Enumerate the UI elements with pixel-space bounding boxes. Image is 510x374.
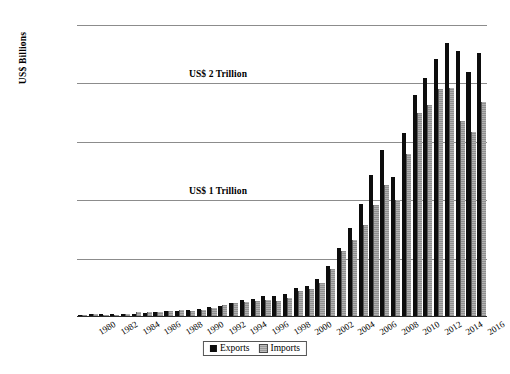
bar-imports[interactable]	[352, 240, 357, 317]
bar-group[interactable]	[88, 25, 99, 317]
x-axis-tick-label: 2004	[356, 319, 377, 337]
bar-group[interactable]	[401, 25, 412, 317]
bar-group[interactable]	[163, 25, 174, 317]
x-axis-tick-label: 2012	[442, 319, 463, 337]
bar-group[interactable]	[369, 25, 380, 317]
bar-group[interactable]	[476, 25, 487, 317]
exports-swatch-icon	[210, 345, 217, 352]
x-axis-tick-label: 2010	[421, 319, 442, 337]
bar-imports[interactable]	[384, 185, 389, 317]
bar-imports[interactable]	[363, 225, 368, 317]
x-axis-line	[77, 316, 487, 317]
bar-group[interactable]	[412, 25, 423, 317]
imports-swatch-icon	[259, 344, 268, 353]
bar-group[interactable]	[282, 25, 293, 317]
bar-group[interactable]	[142, 25, 153, 317]
bar-group[interactable]	[358, 25, 369, 317]
bar-group[interactable]	[347, 25, 358, 317]
bar-imports[interactable]	[244, 302, 249, 317]
y-axis-title: US$ Billions	[18, 0, 28, 118]
x-axis-tick-label: 1994	[248, 319, 269, 337]
x-axis-tick-label: 2016	[486, 319, 507, 337]
bar-group[interactable]	[174, 25, 185, 317]
bar-group[interactable]	[131, 25, 142, 317]
bar-imports[interactable]	[417, 113, 422, 317]
x-axis-tick-label: 1988	[183, 319, 204, 337]
x-axis-tick-label: 1986	[162, 319, 183, 337]
legend-label-exports: Exports	[220, 343, 250, 353]
bar-group[interactable]	[293, 25, 304, 317]
bar-imports[interactable]	[471, 132, 476, 317]
legend-label-imports: Imports	[271, 343, 301, 353]
bar-imports[interactable]	[298, 291, 303, 317]
bar-group[interactable]	[390, 25, 401, 317]
bar-imports[interactable]	[373, 205, 378, 317]
bar-imports[interactable]	[287, 298, 292, 317]
bar-group[interactable]	[379, 25, 390, 317]
bar-group[interactable]	[315, 25, 326, 317]
bar-group[interactable]	[99, 25, 110, 317]
plot-area: $0$500$1,000$1,500$2,000$2,500 US$ 2 Tri…	[77, 25, 487, 317]
bar-group[interactable]	[109, 25, 120, 317]
x-axis-tick-label: 1990	[205, 319, 226, 337]
bar-group[interactable]	[423, 25, 434, 317]
x-axis-tick-label: 2006	[378, 319, 399, 337]
bar-group[interactable]	[336, 25, 347, 317]
x-axis-tick-label: 2014	[464, 319, 485, 337]
bar-group[interactable]	[325, 25, 336, 317]
bar-group[interactable]	[304, 25, 315, 317]
bar-imports[interactable]	[438, 89, 443, 317]
bar-imports[interactable]	[341, 251, 346, 317]
bar-imports[interactable]	[255, 301, 260, 317]
x-axis-tick-label: 2002	[334, 319, 355, 337]
chart-legend: Exports Imports	[203, 341, 307, 356]
bar-imports[interactable]	[427, 105, 432, 317]
bar-imports[interactable]	[265, 300, 270, 317]
bar-imports[interactable]	[395, 200, 400, 318]
bar-group[interactable]	[250, 25, 261, 317]
bar-group[interactable]	[261, 25, 272, 317]
x-axis-tick-label: 1998	[291, 319, 312, 337]
bar-group[interactable]	[444, 25, 455, 317]
legend-item-imports: Imports	[259, 343, 301, 353]
bar-imports[interactable]	[449, 88, 454, 317]
bar-group[interactable]	[271, 25, 282, 317]
bar-imports[interactable]	[309, 289, 314, 317]
x-axis-tick-label: 2008	[399, 319, 420, 337]
bar-group[interactable]	[153, 25, 164, 317]
x-axis-tick-label: 1980	[97, 319, 118, 337]
chart-container: US$ Billions $0$500$1,000$1,500$2,000$2,…	[0, 0, 510, 374]
bar-series-group	[77, 25, 487, 317]
x-axis-tick-label: 1992	[227, 319, 248, 337]
x-axis-tick-label: 1984	[140, 319, 161, 337]
legend-item-exports: Exports	[210, 343, 250, 353]
bar-imports[interactable]	[460, 121, 465, 317]
bar-imports[interactable]	[276, 301, 281, 317]
chart-annotation: US$ 2 Trillion	[189, 69, 247, 79]
x-axis-tick-label: 1982	[119, 319, 140, 337]
bar-group[interactable]	[120, 25, 131, 317]
bar-group[interactable]	[466, 25, 477, 317]
bar-group[interactable]	[77, 25, 88, 317]
bar-imports[interactable]	[406, 154, 411, 317]
bar-group[interactable]	[433, 25, 444, 317]
x-axis-tick-label: 1996	[270, 319, 291, 337]
chart-annotation: US$ 1 Trillion	[189, 186, 247, 196]
bar-imports[interactable]	[330, 269, 335, 317]
bar-imports[interactable]	[319, 283, 324, 317]
bar-imports[interactable]	[481, 102, 486, 317]
bar-group[interactable]	[455, 25, 466, 317]
x-axis-tick-label: 2000	[313, 319, 334, 337]
